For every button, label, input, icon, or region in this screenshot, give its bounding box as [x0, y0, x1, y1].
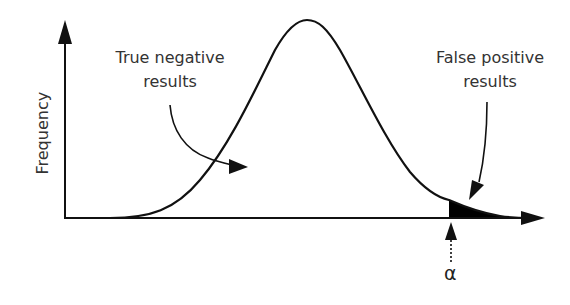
true-negative-label-line1: True negative: [100, 46, 240, 70]
true-negative-label: True negative results: [100, 46, 240, 94]
y-axis-arrowhead: [58, 20, 72, 44]
diagram-canvas: Frequency True negative results False po…: [0, 0, 570, 305]
true-negative-arrow-line: [170, 105, 236, 166]
false-positive-arrow-line: [479, 102, 487, 182]
y-axis-label: Frequency: [33, 95, 52, 175]
alpha-label: α: [444, 262, 457, 284]
false-positive-label-line1: False positive: [420, 46, 560, 70]
true-negative-label-line2: results: [100, 70, 240, 94]
alpha-arrowhead: [445, 222, 457, 240]
false-positive-label-line2: results: [420, 70, 560, 94]
true-negative-arrowhead: [229, 159, 248, 174]
x-axis-arrowhead: [521, 211, 545, 225]
false-positive-label: False positive results: [420, 46, 560, 94]
alpha-shaded-region: [449, 200, 528, 218]
false-positive-arrowhead: [469, 180, 484, 200]
